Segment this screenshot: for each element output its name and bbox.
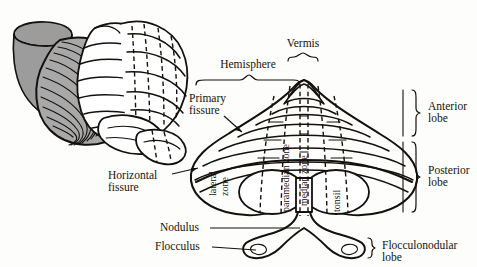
- median-zone-label: median zone: [298, 155, 309, 206]
- paramedian-zone-label-group: paramedian zone: [280, 143, 291, 212]
- posterior-lobe-annotation: Posterior lobe: [403, 142, 470, 212]
- anterior-lobe-label-line1: Anterior: [428, 100, 467, 112]
- flocculonodular-lobe-shape: [243, 212, 365, 258]
- flocculus-label: Flocculus: [155, 240, 200, 252]
- flocculus-annotation: Flocculus: [155, 240, 256, 252]
- diagram-canvas: Vermis Hemisphere Primary fissure Horizo…: [0, 0, 477, 267]
- tonsil-label: tonsil: [331, 190, 342, 212]
- posterior-lobe-label-line2: lobe: [428, 176, 448, 188]
- lateral-zone-label-line2: zone: [219, 177, 230, 196]
- hemisphere-annotation: Hemisphere: [196, 58, 299, 85]
- left-3d-view: [13, 22, 187, 165]
- primary-fissure-label-line2: fissure: [189, 104, 220, 116]
- flocculonodular-lobe-label-line2: lobe: [382, 251, 402, 263]
- flocculonodular-lobe-annotation: Flocculonodular lobe: [368, 238, 458, 263]
- vermis-annotation: Vermis: [287, 37, 320, 61]
- hemisphere-label: Hemisphere: [220, 58, 276, 71]
- lateral-zone-label-group: lateral zone: [207, 171, 230, 196]
- horizontal-fissure-label-line2: fissure: [108, 181, 139, 193]
- posterior-lobe-label-line1: Posterior: [428, 164, 470, 176]
- horizontal-fissure-annotation: Horizontal fissure: [108, 168, 198, 193]
- lateral-zone-label-line1: lateral: [207, 171, 218, 196]
- median-zone-label-group: median zone: [298, 155, 309, 206]
- anterior-lobe-annotation: Anterior lobe: [403, 90, 467, 136]
- horizontal-fissure-label-line1: Horizontal: [108, 169, 157, 181]
- vermis-label: Vermis: [287, 37, 320, 49]
- paramedian-zone-label: paramedian zone: [280, 143, 291, 212]
- nodulus-label: Nodulus: [160, 221, 200, 233]
- cerebellum-figure: Vermis Hemisphere Primary fissure Horizo…: [0, 0, 477, 267]
- primary-fissure-annotation: Primary fissure: [189, 92, 242, 132]
- flocculonodular-lobe-label-line1: Flocculonodular: [382, 239, 458, 251]
- anterior-lobe-label-line2: lobe: [428, 112, 448, 124]
- cerebellum-lower-lobule-3d: [136, 130, 186, 165]
- tonsil-label-group: tonsil: [331, 190, 342, 212]
